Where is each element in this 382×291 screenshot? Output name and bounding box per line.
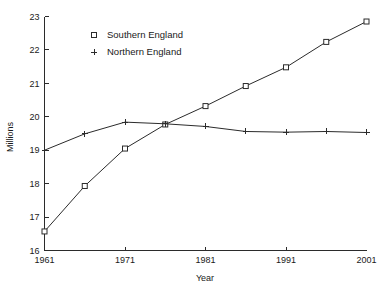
- x-tick-label: 1961: [34, 255, 54, 265]
- legend-label: Southern England: [107, 29, 183, 40]
- y-tick-label: 18: [29, 179, 39, 189]
- y-axis-title: Millions: [5, 122, 15, 153]
- legend-label: Northern England: [107, 46, 181, 57]
- x-tick-label: 1991: [276, 255, 296, 265]
- data-point-marker: [243, 84, 248, 89]
- y-tick-label: 19: [29, 145, 39, 155]
- y-tick-label: 23: [29, 12, 39, 22]
- y-tick-label: 17: [29, 212, 39, 222]
- x-axis-title: Year: [196, 273, 214, 283]
- x-tick-label: 1971: [115, 255, 135, 265]
- data-point-marker: [203, 104, 208, 109]
- x-tick-label: 2001: [356, 255, 376, 265]
- data-point-marker: [82, 183, 87, 188]
- data-point-marker: [42, 229, 47, 234]
- y-tick-label: 21: [29, 79, 39, 89]
- data-point-marker: [123, 146, 128, 151]
- clipped-caption-artifact: [0, 283, 382, 291]
- population-line-chart: 1617181920212223 19611971198119912001 So…: [0, 0, 382, 291]
- data-point-marker: [364, 19, 369, 24]
- data-point-marker: [284, 65, 289, 70]
- y-tick-label: 20: [29, 112, 39, 122]
- x-tick-label: 1981: [195, 255, 215, 265]
- y-tick-label: 22: [29, 45, 39, 55]
- legend-marker-open-square: [92, 33, 97, 38]
- data-point-marker: [324, 39, 329, 44]
